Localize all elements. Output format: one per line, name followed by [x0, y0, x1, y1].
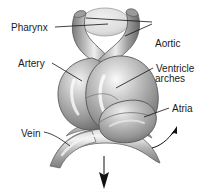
label-aortic-arches: Aortic arches [155, 15, 185, 107]
label-atria: Atria [172, 103, 193, 115]
label-aortic-arches-line1: Aortic [155, 38, 185, 50]
curved-up-right-arrow [152, 126, 177, 148]
pharynx-shape [81, 8, 129, 36]
label-artery: Artery [18, 58, 45, 70]
label-pharynx: Pharynx [11, 22, 48, 34]
down-arrow [99, 156, 109, 189]
label-vein: Vein [21, 128, 40, 140]
label-ventricle: Ventricle [156, 63, 194, 75]
embryonic-heart-figure: Pharynx Aortic arches Artery Ventricle A… [0, 0, 212, 193]
